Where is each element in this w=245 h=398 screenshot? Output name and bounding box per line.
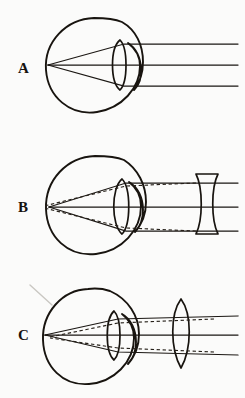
converging-lens-c: [173, 299, 190, 368]
panel-b-canvas: B: [0, 136, 245, 278]
ray-upper-dashed-b: [44, 183, 196, 206]
panel-label-c: C: [18, 327, 29, 343]
diagram-panel-b: B: [0, 136, 245, 278]
eye-globe-b: [46, 156, 146, 254]
scan-artifact-c: [30, 285, 52, 305]
ray-lower-dashed-b: [44, 208, 196, 231]
eye-globe-c: [43, 289, 139, 385]
panel-label-a: A: [18, 60, 29, 76]
ray-lower-solid-c: [45, 335, 238, 355]
panel-c-canvas: C: [0, 278, 245, 398]
diagram-panel-a: A: [0, 0, 245, 136]
diagram-panel-c: C: [0, 278, 245, 398]
panel-label-b: B: [18, 199, 28, 215]
panel-a-canvas: A: [0, 0, 245, 136]
optics-figure: A B: [0, 0, 245, 398]
